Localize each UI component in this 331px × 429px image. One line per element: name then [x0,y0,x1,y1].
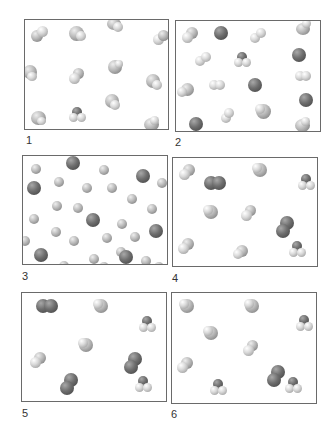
atom-icon [22,236,30,246]
atom-icon [147,204,157,214]
panel-6 [171,292,317,404]
panel-label-5: 5 [22,407,28,419]
atom-icon [52,201,62,211]
panel-label-4: 4 [172,272,178,284]
atom-icon [107,183,117,193]
atom-icon [31,164,41,174]
atom-icon [51,227,61,237]
atom-icon [73,203,83,213]
atom-icon [29,214,39,224]
atom-icon [54,177,64,187]
panel-label-1: 1 [26,134,32,146]
atom-icon [117,219,127,229]
atom-icon [154,262,164,265]
atom-icon [141,256,151,265]
atom-icon [130,232,140,242]
atom-icon [89,254,99,264]
panel-1 [24,19,169,130]
atom-icon [66,156,80,170]
atom-icon [99,165,109,175]
panel-label-3: 3 [22,270,28,282]
panel-4 [172,157,318,267]
atom-icon [119,250,133,264]
panel-5 [21,292,167,402]
atom-icon [99,262,109,265]
panel-label-2: 2 [175,136,181,148]
atom-icon [86,213,100,227]
atom-icon [82,183,92,193]
atom-icon [127,194,137,204]
panel-3 [22,155,168,265]
panel-label-6: 6 [171,408,177,420]
atom-icon [27,181,41,195]
panel-2 [175,20,321,132]
atom-icon [102,233,112,243]
atom-icon [34,248,48,262]
atom-icon [59,261,69,265]
atom-icon [136,169,150,183]
atom-icon [149,224,163,238]
atom-icon [157,178,167,188]
atom-icon [69,236,79,246]
